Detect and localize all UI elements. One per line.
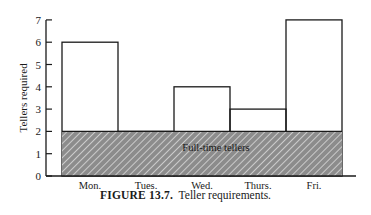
full-time-segment — [174, 131, 230, 176]
figure-caption: FIGURE 13.7. Teller requirements. — [0, 189, 371, 201]
full-time-segment — [286, 131, 342, 176]
y-tick-label: 1 — [36, 148, 42, 160]
caption-text: Teller requirements. — [179, 189, 271, 201]
y-tick-label: 5 — [36, 59, 42, 71]
y-tick-label: 4 — [36, 81, 42, 93]
y-tick-label: 0 — [36, 170, 42, 182]
caption-label: FIGURE 13.7. — [100, 189, 173, 201]
full-time-segment — [62, 131, 118, 176]
full-time-segment — [230, 131, 286, 176]
full-time-band — [62, 131, 342, 176]
full-time-tellers-annotation: Full-time tellers — [182, 142, 249, 153]
y-axis-label: Tellers required — [17, 63, 29, 133]
y-tick-label: 3 — [36, 103, 42, 115]
y-tick-label: 7 — [36, 14, 42, 26]
full-time-segment — [118, 131, 174, 176]
y-tick-label: 2 — [36, 125, 42, 137]
teller-requirements-chart: 01234567Mon.Tues.Wed.Thurs.Fri.Tellers r… — [0, 0, 371, 190]
y-tick-label: 6 — [36, 36, 42, 48]
